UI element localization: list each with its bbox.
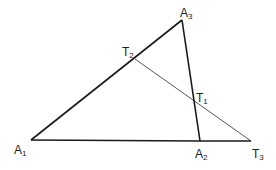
background [0, 0, 276, 170]
triangle-diagram: A1 A2 A3 T1 T2 T3 [0, 0, 276, 170]
side-a1-a2 [31, 140, 200, 141]
